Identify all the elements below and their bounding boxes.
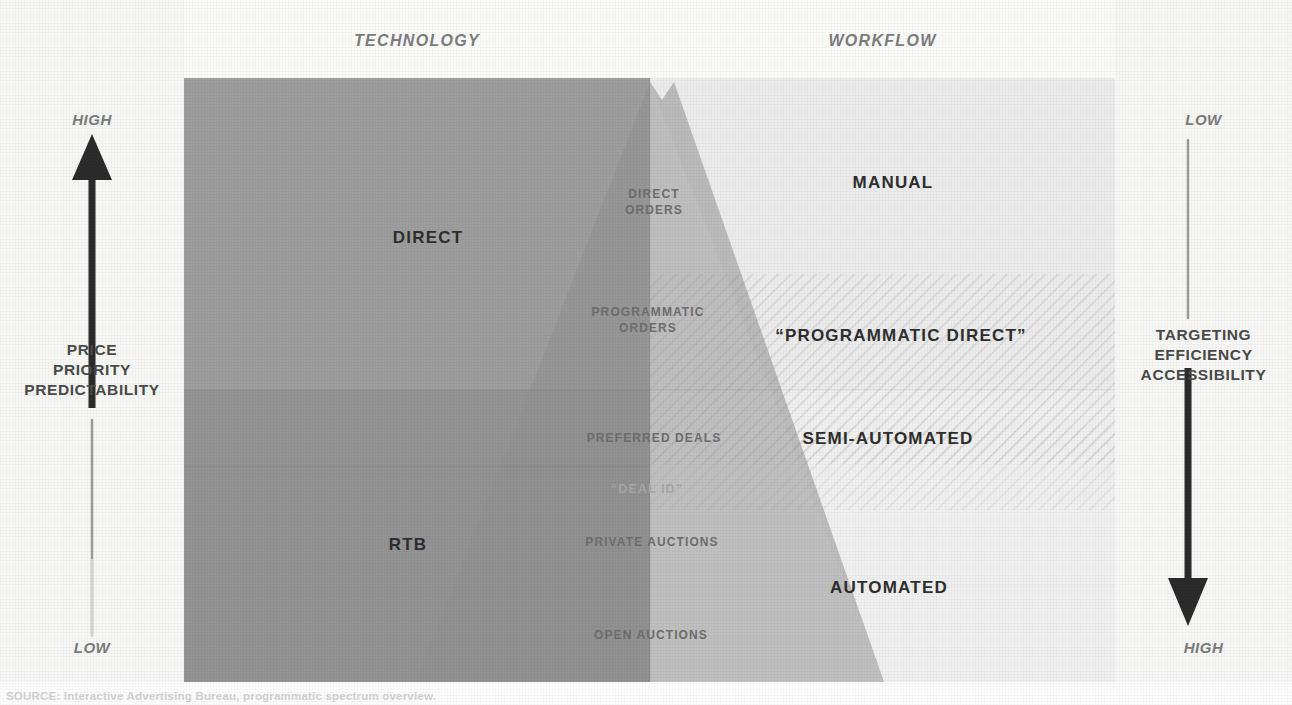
right-axis-rail: LOW TARGETING EFFICIENCY ACCESSIBILITY H… — [1115, 0, 1292, 682]
label-programmatic-orders: PROGRAMMATIC ORDERS — [592, 305, 705, 336]
label-manual-text: MANUAL — [853, 173, 934, 192]
label-preferred-deals: PREFERRED DEALS — [587, 431, 722, 447]
label-direct-orders-line2: ORDERS — [625, 203, 683, 219]
right-axis-title-line2: EFFICIENCY — [1115, 345, 1292, 365]
source-footnote: SOURCE: Interactive Advertising Bureau, … — [6, 690, 1206, 702]
right-axis-bottom-extreme: HIGH — [1115, 638, 1292, 657]
label-semi-automated: SEMI-AUTOMATED — [802, 428, 973, 450]
label-rtb-text: RTB — [389, 535, 428, 554]
label-semi-automated-text: SEMI-AUTOMATED — [802, 429, 973, 448]
left-axis-bottom-extreme: LOW — [0, 638, 184, 657]
label-direct: DIRECT — [393, 227, 463, 249]
label-manual: MANUAL — [853, 172, 934, 194]
label-deal-id: “DEAL ID” — [611, 481, 683, 497]
diagram-canvas: HIGH PRICE PRIORITY PREDICTABILITY LOW L… — [0, 0, 1292, 705]
label-preferred-deals-line1: PREFERRED DEALS — [587, 431, 722, 447]
label-private-auctions-line1: PRIVATE AUCTIONS — [585, 535, 718, 551]
left-axis-title-line2: PRIORITY — [0, 360, 184, 380]
header-workflow: WORKFLOW — [650, 32, 1115, 50]
label-open-auctions-line1: OPEN AUCTIONS — [594, 628, 708, 644]
label-programmatic-direct: “PROGRAMMATIC DIRECT” — [775, 325, 1027, 347]
right-axis-top-extreme: LOW — [1115, 110, 1292, 129]
spectrum-panel — [184, 78, 1115, 682]
right-axis-title-line1: TARGETING — [1115, 325, 1292, 345]
label-direct-text: DIRECT — [393, 228, 463, 247]
label-direct-orders-line1: DIRECT — [625, 187, 683, 203]
left-axis-title-line3: PREDICTABILITY — [0, 380, 184, 400]
label-deal-id-line1: “DEAL ID” — [611, 481, 683, 497]
label-programmatic-direct-text: “PROGRAMMATIC DIRECT” — [775, 326, 1027, 345]
label-rtb: RTB — [389, 534, 428, 556]
label-private-auctions: PRIVATE AUCTIONS — [585, 535, 718, 551]
label-programmatic-orders-line1: PROGRAMMATIC — [592, 305, 705, 321]
label-direct-orders: DIRECT ORDERS — [625, 187, 683, 218]
spectrum-shading-graphic — [184, 78, 1115, 682]
left-axis-rail: HIGH PRICE PRIORITY PREDICTABILITY LOW — [0, 0, 184, 682]
label-open-auctions: OPEN AUCTIONS — [594, 628, 708, 644]
header-technology: TECHNOLOGY — [184, 32, 650, 50]
label-automated: AUTOMATED — [830, 577, 948, 599]
label-programmatic-orders-line2: ORDERS — [592, 321, 705, 337]
left-axis-title-line1: PRICE — [0, 340, 184, 360]
label-automated-text: AUTOMATED — [830, 578, 948, 597]
left-axis-top-extreme: HIGH — [0, 110, 184, 129]
right-axis-title-line3: ACCESSIBILITY — [1115, 365, 1292, 385]
